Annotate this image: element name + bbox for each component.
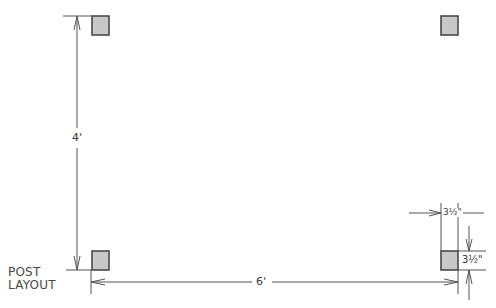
post-layout-drawing — [0, 0, 496, 308]
post-depth-label: 3½" — [460, 254, 485, 266]
height-dimension-label: 4' — [72, 132, 82, 143]
post-width-label: 3½" — [442, 208, 463, 217]
post-top-left — [92, 16, 109, 35]
post-bottom-left — [92, 251, 109, 270]
width-dimension-line — [91, 270, 458, 294]
title-line-2: LAYOUT — [8, 279, 56, 292]
drawing-title: POST LAYOUT — [8, 266, 56, 292]
width-dimension-label: 6' — [256, 276, 266, 287]
post-top-right — [441, 16, 458, 35]
post-bottom-right — [441, 251, 458, 270]
